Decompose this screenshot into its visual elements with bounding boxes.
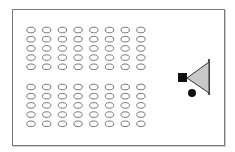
seat-icon	[137, 121, 145, 127]
seat-icon	[121, 103, 129, 109]
seat-icon	[27, 112, 35, 118]
seat-icon	[137, 27, 145, 33]
seat-icon	[43, 93, 51, 99]
seat-icon	[43, 112, 51, 118]
seat-icon	[137, 103, 145, 109]
seat-icon	[121, 84, 129, 90]
seat-icon	[137, 112, 145, 118]
seat-icon	[121, 46, 129, 52]
presenter-icon	[188, 89, 196, 97]
seat-icon	[137, 93, 145, 99]
seat-icon	[74, 64, 82, 70]
seat-icon	[105, 36, 113, 42]
seat-icon	[58, 27, 66, 33]
seat-icon	[121, 93, 129, 99]
seat-icon	[105, 112, 113, 118]
seat-icon	[74, 27, 82, 33]
seat-icon	[105, 93, 113, 99]
seat-icon	[137, 64, 145, 70]
seat-icon	[27, 27, 35, 33]
seat-icon	[27, 93, 35, 99]
seat-icon	[43, 36, 51, 42]
seat-icon	[90, 93, 98, 99]
seat-icon	[74, 112, 82, 118]
seat-icon	[58, 36, 66, 42]
seating-area	[27, 27, 145, 126]
seat-icon	[105, 84, 113, 90]
seat-icon	[121, 36, 129, 42]
front-block	[27, 27, 145, 69]
seat-icon	[74, 84, 82, 90]
seat-icon	[27, 121, 35, 127]
seat-icon	[58, 103, 66, 109]
seat-icon	[43, 64, 51, 70]
seat-icon	[43, 55, 51, 61]
seat-icon	[121, 55, 129, 61]
seat-icon	[27, 55, 35, 61]
seat-icon	[105, 55, 113, 61]
seat-icon	[74, 36, 82, 42]
seat-icon	[27, 36, 35, 42]
seat-icon	[74, 55, 82, 61]
seat-icon	[90, 84, 98, 90]
seat-icon	[74, 121, 82, 127]
seat-icon	[105, 27, 113, 33]
seat-icon	[27, 46, 35, 52]
seat-icon	[121, 121, 129, 127]
seat-icon	[58, 84, 66, 90]
seat-icon	[137, 84, 145, 90]
seat-icon	[43, 84, 51, 90]
seat-icon	[58, 93, 66, 99]
room-layout-diagram	[0, 0, 235, 152]
seat-icon	[58, 55, 66, 61]
seat-icon	[43, 103, 51, 109]
seat-icon	[74, 93, 82, 99]
seat-icon	[43, 46, 51, 52]
seat-icon	[58, 46, 66, 52]
seat-icon	[43, 121, 51, 127]
seat-icon	[121, 112, 129, 118]
seat-icon	[121, 64, 129, 70]
seat-icon	[121, 27, 129, 33]
seat-icon	[137, 46, 145, 52]
seat-icon	[58, 121, 66, 127]
seat-icon	[137, 36, 145, 42]
projector-icon	[178, 73, 187, 82]
seat-icon	[90, 55, 98, 61]
back-block	[27, 84, 145, 126]
seat-icon	[105, 64, 113, 70]
seat-icon	[105, 46, 113, 52]
seat-icon	[74, 46, 82, 52]
seat-icon	[90, 121, 98, 127]
seat-icon	[90, 112, 98, 118]
seat-icon	[105, 121, 113, 127]
seat-icon	[105, 103, 113, 109]
projection-cone-icon	[187, 62, 209, 93]
seat-icon	[58, 112, 66, 118]
seat-icon	[90, 36, 98, 42]
seat-icon	[27, 64, 35, 70]
seat-icon	[90, 64, 98, 70]
seat-icon	[74, 103, 82, 109]
seat-icon	[27, 84, 35, 90]
seat-icon	[137, 55, 145, 61]
seat-icon	[58, 64, 66, 70]
seat-icon	[90, 46, 98, 52]
seat-icon	[27, 103, 35, 109]
seat-icon	[43, 27, 51, 33]
seat-icon	[90, 103, 98, 109]
seat-icon	[90, 27, 98, 33]
